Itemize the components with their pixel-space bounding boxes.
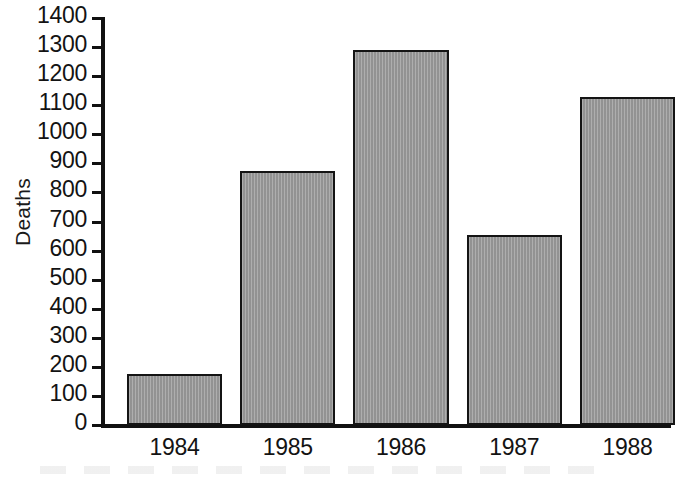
y-tick-label: 0 bbox=[75, 411, 88, 434]
y-tick-mark bbox=[92, 424, 105, 427]
x-tick-label-1985: 1985 bbox=[240, 436, 335, 459]
x-tick-label-1986: 1986 bbox=[353, 436, 448, 459]
y-tick-label: 200 bbox=[50, 353, 87, 376]
y-tick-mark bbox=[92, 221, 105, 224]
y-tick-mark bbox=[92, 17, 105, 20]
y-tick-label: 300 bbox=[50, 324, 87, 347]
bar-1984 bbox=[127, 374, 222, 425]
bar-chart-figure: Deaths 010020030040050060070080090010001… bbox=[0, 0, 681, 479]
y-tick-mark bbox=[92, 395, 105, 398]
y-tick-label: 900 bbox=[50, 149, 87, 172]
bar-1987 bbox=[467, 235, 562, 425]
y-tick-mark bbox=[92, 75, 105, 78]
y-axis-title: Deaths bbox=[11, 152, 35, 272]
y-tick-label: 400 bbox=[50, 295, 87, 318]
y-tick-mark bbox=[92, 104, 105, 107]
y-tick-mark bbox=[92, 250, 105, 253]
y-tick-label: 1000 bbox=[37, 120, 87, 143]
y-tick-mark bbox=[92, 162, 105, 165]
scan-artifact bbox=[40, 466, 600, 474]
y-tick-label: 1100 bbox=[39, 91, 87, 114]
bar-1985 bbox=[240, 171, 335, 425]
y-tick-label: 1300 bbox=[37, 33, 87, 56]
y-tick-label: 1200 bbox=[37, 62, 87, 85]
y-tick-label: 700 bbox=[50, 208, 87, 231]
plot-area bbox=[105, 18, 671, 425]
x-tick-label-1984: 1984 bbox=[127, 436, 222, 459]
y-tick-mark bbox=[92, 133, 105, 136]
y-tick-label: 100 bbox=[50, 382, 87, 405]
bar-1988 bbox=[580, 97, 675, 426]
y-tick-label: 1400 bbox=[37, 4, 87, 27]
y-tick-mark bbox=[92, 337, 105, 340]
y-tick-label: 800 bbox=[50, 178, 87, 201]
bar-1986 bbox=[353, 50, 448, 425]
x-tick-label-1988: 1988 bbox=[580, 436, 675, 459]
x-tick-label-1987: 1987 bbox=[467, 436, 562, 459]
y-tick-label: 500 bbox=[50, 266, 87, 289]
y-tick-mark bbox=[92, 46, 105, 49]
y-tick-mark bbox=[92, 308, 105, 311]
y-tick-mark bbox=[92, 279, 105, 282]
y-tick-mark bbox=[92, 366, 105, 369]
y-tick-mark bbox=[92, 191, 105, 194]
y-tick-label: 600 bbox=[50, 237, 87, 260]
